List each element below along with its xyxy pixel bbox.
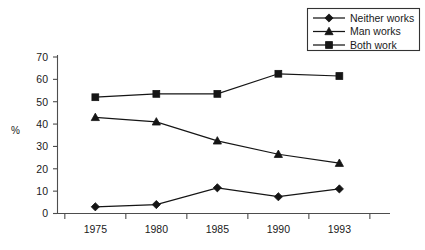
y-tick-label: 40 <box>36 118 48 130</box>
y-tick-label: 70 <box>36 51 48 63</box>
data-point-marker <box>213 184 221 192</box>
series-group <box>91 70 343 211</box>
series-both-work <box>92 70 343 100</box>
series-man-works <box>91 113 343 166</box>
data-point-marker <box>152 200 160 208</box>
x-tick-label: 1990 <box>267 223 291 235</box>
x-axis-ticks: 19751980198519901993 <box>65 214 370 236</box>
y-tick-label: 20 <box>36 163 48 175</box>
y-tick-label: 50 <box>36 96 48 108</box>
legend-label: Man works <box>350 25 401 37</box>
x-tick-label: 1985 <box>206 223 230 235</box>
y-tick-label: 10 <box>36 185 48 197</box>
legend-label: Both work <box>350 39 397 51</box>
data-point-marker <box>274 193 282 201</box>
x-tick-label: 1980 <box>145 223 169 235</box>
y-tick-label: 30 <box>36 140 48 152</box>
data-point-marker <box>275 70 282 77</box>
data-point-marker <box>214 90 221 97</box>
y-tick-label: 0 <box>42 207 48 219</box>
series-neither-works <box>91 184 343 211</box>
data-point-marker <box>91 203 99 211</box>
legend-label: Neither works <box>350 12 414 24</box>
data-point-marker <box>336 73 343 80</box>
data-point-marker <box>92 94 99 101</box>
x-tick-label: 1975 <box>84 223 108 235</box>
x-tick-label: 1993 <box>328 223 352 235</box>
y-axis-label: % <box>11 125 20 136</box>
data-point-marker <box>153 90 160 97</box>
y-axis-ticks: 706050403020100 <box>36 51 57 220</box>
data-point-marker <box>91 113 99 120</box>
y-tick-label: 60 <box>36 73 48 85</box>
chart-canvas: % 706050403020100 19751980198519901993 N… <box>0 0 425 250</box>
legend-marker-square-icon <box>326 42 333 49</box>
line-chart: % 706050403020100 19751980198519901993 N… <box>0 0 425 250</box>
data-point-marker <box>335 185 343 193</box>
